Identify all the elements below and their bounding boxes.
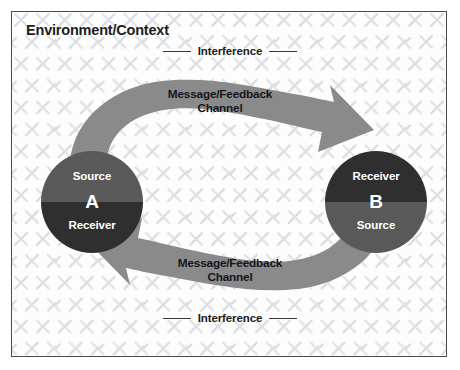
interference-rule-right (269, 318, 297, 319)
interference-rule-left (163, 51, 191, 52)
interference-bottom-label: Interference (198, 312, 263, 324)
interference-top-label: Interference (198, 45, 263, 57)
flow-graphics (12, 12, 447, 357)
node-b-circle (325, 151, 427, 254)
environment-context-panel: Environment/Context Interference Interfe… (11, 11, 447, 357)
interference-rule-left (163, 318, 191, 319)
page-title: Environment/Context (26, 22, 169, 38)
communication-model-diagram: Environment/Context Interference Interfe… (0, 0, 460, 370)
interference-top: Interference (12, 45, 447, 57)
interference-bottom: Interference (12, 312, 447, 324)
interference-rule-right (269, 51, 297, 52)
message-channel-arrow-top (70, 80, 374, 164)
